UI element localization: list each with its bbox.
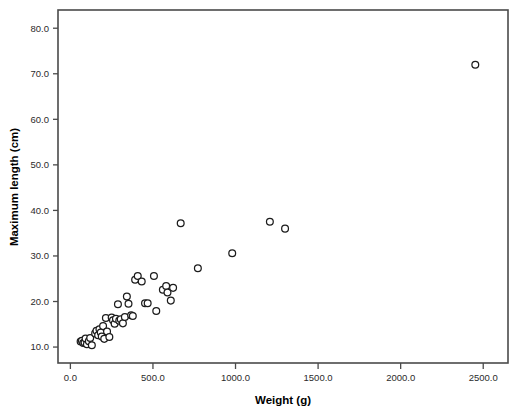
y-tick-label: 10.0 — [31, 341, 50, 352]
x-tick-label: 2500.0 — [469, 372, 498, 383]
data-point — [115, 301, 122, 308]
y-tick-label: 40.0 — [31, 205, 50, 216]
data-point — [88, 342, 95, 349]
data-point — [144, 300, 151, 307]
x-axis-title: Weight (g) — [255, 394, 311, 406]
plot-canvas: 10.020.030.040.050.060.070.080.0 0.0500.… — [0, 0, 520, 416]
y-tick-label: 50.0 — [31, 159, 50, 170]
data-point — [266, 218, 273, 225]
data-point — [282, 225, 289, 232]
y-axis-title: Maximum length (cm) — [8, 128, 20, 246]
y-tick-label: 30.0 — [31, 250, 50, 261]
x-tick-label: 2000.0 — [386, 372, 415, 383]
x-tick-label: 1000.0 — [221, 372, 250, 383]
data-point — [123, 293, 130, 300]
y-tick-label: 20.0 — [31, 296, 50, 307]
scatter-plot-figure: 10.020.030.040.050.060.070.080.0 0.0500.… — [0, 0, 520, 416]
data-point — [229, 250, 236, 257]
data-point — [163, 283, 170, 290]
data-point — [129, 313, 136, 320]
figure-background — [0, 0, 520, 416]
data-point — [125, 300, 132, 307]
data-point — [106, 334, 113, 341]
y-tick-label: 60.0 — [31, 114, 50, 125]
data-point — [194, 265, 201, 272]
data-point — [472, 61, 479, 68]
y-tick-label: 70.0 — [31, 68, 50, 79]
data-point — [153, 308, 160, 315]
x-tick-label: 500.0 — [141, 372, 165, 383]
data-point — [177, 220, 184, 227]
y-tick-label: 80.0 — [31, 23, 50, 34]
x-tick-label: 1500.0 — [304, 372, 333, 383]
data-point — [138, 278, 145, 285]
x-tick-label: 0.0 — [64, 372, 77, 383]
data-point — [167, 297, 174, 304]
data-point — [170, 284, 177, 291]
data-point — [151, 273, 158, 280]
